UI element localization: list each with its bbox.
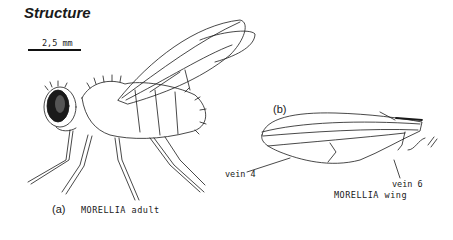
panel-label-a: (a)	[52, 203, 65, 215]
caption-adult: MORELLIA adult	[81, 205, 160, 215]
label-vein-4: vein 4	[225, 169, 256, 179]
label-vein-6: vein 6	[392, 179, 423, 189]
fly-adult-drawing	[28, 20, 255, 200]
panel-label-b: (b)	[273, 103, 286, 115]
wing-drawing	[247, 112, 437, 178]
caption-wing: MORELLIA wing	[334, 190, 407, 200]
